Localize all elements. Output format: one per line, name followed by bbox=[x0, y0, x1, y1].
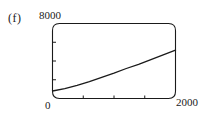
data-series bbox=[53, 50, 176, 91]
figure-panel: (f) 8000 0 2000 bbox=[0, 0, 205, 121]
plot-area bbox=[0, 0, 205, 121]
series-line-curve bbox=[53, 50, 176, 91]
